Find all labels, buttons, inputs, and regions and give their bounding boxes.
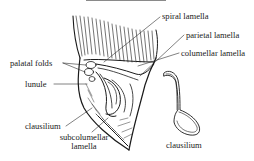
label-palatal-folds: palatal folds (10, 59, 52, 68)
label-subcolumellar-lamella: subcolumellar lamella (55, 133, 113, 151)
shell-ribs (76, 16, 154, 62)
label-clausilium: clausilium (25, 122, 61, 131)
label-lunule: lunule (25, 80, 46, 89)
label-clausilium-detail: clausilium (166, 141, 202, 150)
label-spiral-lamella: spiral lamella (162, 12, 209, 21)
clausilium-detail-drawing (164, 71, 200, 135)
leader-lines (54, 17, 184, 132)
label-parietal-lamella: parietal lamella (186, 31, 239, 40)
label-columellar-lamella: columellar lamella (181, 49, 245, 58)
label-subcolumellar-line2: lamella (55, 142, 113, 151)
